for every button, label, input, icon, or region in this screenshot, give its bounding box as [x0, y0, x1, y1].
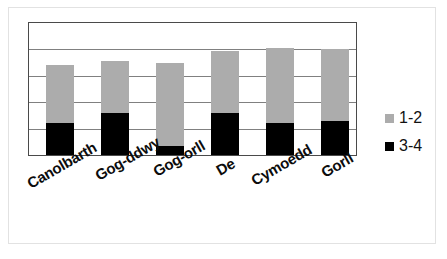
bar-segment-1-2: [101, 61, 129, 112]
bar-segment-1-2: [46, 65, 74, 123]
legend-item-1-2[interactable]: 1-2: [385, 104, 443, 132]
x-axis-tick-labels: Canolbarth Gog-ddwy Gog-orll De Cymoedd …: [0, 156, 380, 256]
bar-de[interactable]: [211, 51, 239, 155]
bar-segment-3-4: [211, 113, 239, 155]
legend-label-1-2: 1-2: [399, 110, 422, 126]
bars-layer: [29, 23, 356, 155]
bar-gog-orll[interactable]: [156, 63, 184, 155]
bar-segment-1-2: [211, 51, 239, 113]
bar-segment-1-2: [266, 48, 294, 123]
legend-swatch-icon-1-2: [385, 114, 394, 123]
bar-gog-ddwy[interactable]: [101, 61, 129, 155]
legend: 1-2 3-4: [385, 104, 443, 160]
legend-label-3-4: 3-4: [399, 138, 422, 154]
plot-area: [28, 22, 357, 156]
legend-item-3-4[interactable]: 3-4: [385, 132, 443, 160]
bar-gorll[interactable]: [321, 49, 349, 155]
bar-canolbarth[interactable]: [46, 65, 74, 155]
legend-swatch-icon-3-4: [385, 142, 394, 151]
bar-segment-1-2: [321, 49, 349, 120]
bar-cymoedd[interactable]: [266, 48, 294, 155]
x-tick-label-de: De: [213, 155, 238, 179]
bar-segment-1-2: [156, 63, 184, 146]
chart-container: Canolbarth Gog-ddwy Gog-orll De Cymoedd …: [0, 0, 447, 259]
